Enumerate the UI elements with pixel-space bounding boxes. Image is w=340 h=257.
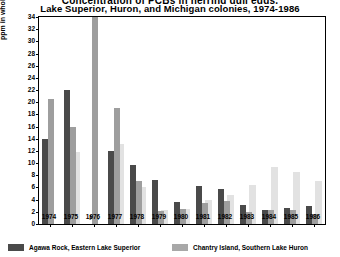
bar-chantry-island [70, 127, 76, 224]
legend-swatch [8, 244, 24, 251]
divider [0, 237, 340, 238]
x-tick-label: 1984 [258, 213, 280, 220]
x-tick-mark [292, 224, 293, 227]
chart-title-line2: Lake Superior, Huron, and Michigan colon… [0, 3, 340, 14]
y-tick-label: 8 [5, 172, 35, 178]
legend-swatch [172, 244, 188, 251]
legend-item: Agawa Rock, Eastern Lake Superior [8, 244, 140, 251]
y-axis-label: ppm in whole egg samples (wet weight) [0, 0, 6, 40]
bar-group [61, 17, 83, 224]
plot-area: 0246810121416182022242628303234NA [38, 16, 326, 225]
x-tick-mark [226, 224, 227, 227]
x-tick-mark [72, 224, 73, 227]
x-tick-label: 1978 [126, 213, 148, 220]
x-tick-mark [138, 224, 139, 227]
x-tick-label: 1986 [302, 213, 324, 220]
bar-group [215, 17, 237, 224]
x-tick-label: 1981 [192, 213, 214, 220]
x-tick-label: 1977 [104, 213, 126, 220]
bar-chantry-island [92, 17, 98, 224]
x-tick-mark [116, 224, 117, 227]
y-tick-label: 2 [5, 209, 35, 215]
x-tick-label: 1974 [38, 213, 60, 220]
legend-label: Chantry Island, Southern Lake Huron [193, 244, 308, 251]
bar-group [193, 17, 215, 224]
legend-label: Agawa Rock, Eastern Lake Superior [29, 244, 140, 251]
y-tick-label: 12 [5, 148, 35, 154]
x-tick-label: 1980 [170, 213, 192, 220]
x-tick-label: 1983 [236, 213, 258, 220]
bar-group [281, 17, 303, 224]
legend-item: Chantry Island, Southern Lake Huron [172, 244, 308, 251]
bar-group [171, 17, 193, 224]
y-tick-mark [36, 224, 39, 225]
chart-page: Concentration of PCBs in herring gull eg… [0, 0, 340, 257]
x-tick-mark [50, 224, 51, 227]
x-tick-mark [204, 224, 205, 227]
y-tick-label: 34 [5, 14, 35, 20]
y-tick-label: 4 [5, 197, 35, 203]
x-tick-mark [270, 224, 271, 227]
x-tick-label: 1975 [60, 213, 82, 220]
y-tick-label: 32 [5, 26, 35, 32]
y-tick-label: 14 [5, 136, 35, 142]
x-tick-mark [182, 224, 183, 227]
bar-chantry-island [114, 108, 120, 224]
bar-group [39, 17, 61, 224]
y-tick-label: 16 [5, 124, 35, 130]
bar-group [127, 17, 149, 224]
y-tick-label: 30 [5, 38, 35, 44]
chart-legend: Agawa Rock, Eastern Lake SuperiorChantry… [0, 241, 340, 257]
y-tick-label: 18 [5, 111, 35, 117]
y-tick-label: 6 [5, 184, 35, 190]
x-tick-label: 1976 [82, 213, 104, 220]
x-tick-mark [94, 224, 95, 227]
y-tick-label: 24 [5, 75, 35, 81]
x-tick-label: 1982 [214, 213, 236, 220]
x-tick-mark [160, 224, 161, 227]
bar-group: NA [83, 17, 105, 224]
y-tick-label: 22 [5, 87, 35, 93]
bar-group [105, 17, 127, 224]
y-tick-label: 10 [5, 160, 35, 166]
bar-chantry-island [48, 99, 54, 224]
y-tick-label: 28 [5, 51, 35, 57]
x-tick-label: 1985 [280, 213, 302, 220]
y-tick-label: 0 [5, 221, 35, 227]
x-tick-mark [248, 224, 249, 227]
bar-group [303, 17, 325, 224]
bar-group [237, 17, 259, 224]
y-tick-label: 20 [5, 99, 35, 105]
y-tick-label: 26 [5, 63, 35, 69]
x-tick-mark [314, 224, 315, 227]
bar-group [259, 17, 281, 224]
x-tick-label: 1979 [148, 213, 170, 220]
bar-group [149, 17, 171, 224]
